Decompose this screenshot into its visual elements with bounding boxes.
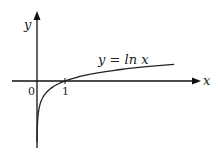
ln-graph: y x 0 1 y = ln x — [0, 0, 218, 156]
origin-label: 0 — [28, 85, 35, 98]
tick-label-1: 1 — [62, 85, 69, 98]
curve-label: y = ln x — [97, 52, 149, 67]
y-axis-arrow-icon — [34, 11, 41, 20]
x-axis-arrow-icon — [192, 78, 201, 85]
y-axis-label: y — [23, 17, 32, 32]
ln-curve — [37, 64, 174, 142]
x-axis-label: x — [203, 73, 211, 88]
